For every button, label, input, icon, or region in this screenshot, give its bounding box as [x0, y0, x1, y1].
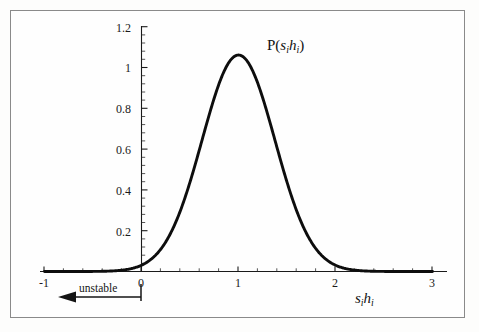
y-major-ticks — [142, 27, 148, 231]
xtitle-h: h — [364, 290, 372, 306]
y-tick-label-1-2: 1.2 — [99, 22, 131, 34]
x-tick-label-3: 3 — [418, 277, 446, 289]
plot-title: P(sihi) — [267, 38, 304, 55]
y-tick-label-0-6: 0.6 — [99, 144, 131, 156]
y-tick-label-0-2: 0.2 — [99, 226, 131, 238]
x-tick-label-neg1: -1 — [30, 277, 58, 289]
title-close-paren: ) — [299, 37, 304, 53]
xtitle-h-subscript: i — [371, 297, 374, 308]
y-tick-label-0-8: 0.8 — [99, 103, 131, 115]
distribution-curve — [45, 55, 433, 271]
y-tick-label-1: 1 — [99, 62, 131, 74]
x-axis-title: sihi — [355, 291, 374, 308]
x-tick-label-2: 2 — [321, 277, 349, 289]
y-tick-label-0-4: 0.4 — [99, 185, 131, 197]
x-tick-label-0: 0 — [127, 277, 155, 289]
unstable-annotation-label: unstable — [79, 283, 117, 295]
x-tick-label-1: 1 — [224, 277, 252, 289]
figure-canvas: 1.2 1 0.8 0.6 0.4 0.2 -1 0 1 2 3 P(sihi)… — [0, 0, 479, 332]
y-axis — [142, 26, 148, 272]
